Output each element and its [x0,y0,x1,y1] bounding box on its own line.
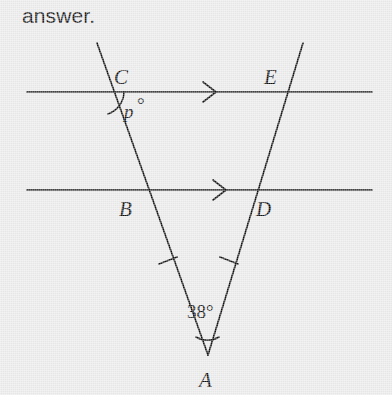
angle-label-p: p [122,101,134,122]
angle-label-apex: 38° [187,301,214,322]
diagram-page: answer. C E B D A p ° 38° [0,0,392,395]
point-label-e: E [263,65,277,89]
angle-label-p-degree: ° [137,94,145,115]
point-label-c: C [114,65,129,89]
angle-arc-apex [196,337,219,340]
point-label-d: D [255,197,271,221]
point-label-b: B [119,197,132,221]
geometry-figure: C E B D A p ° 38° [0,0,392,395]
point-label-a: A [197,368,212,392]
congruent-tick-right [220,257,238,264]
